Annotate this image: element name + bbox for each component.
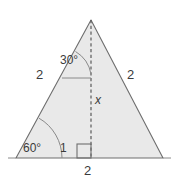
angle-label-60-degrees: 60° xyxy=(23,142,41,154)
side-label-left: 2 xyxy=(36,68,43,81)
base-segment-label: 1 xyxy=(60,142,67,154)
angle-label-30-degrees: 30° xyxy=(60,54,78,66)
base-total-label: 2 xyxy=(84,164,91,177)
altitude-label-x: x xyxy=(95,94,101,106)
geometry-figure: 30° 60° 2 2 x 1 2 xyxy=(0,0,179,182)
triangle-shape xyxy=(16,20,163,158)
side-label-right: 2 xyxy=(127,68,134,81)
